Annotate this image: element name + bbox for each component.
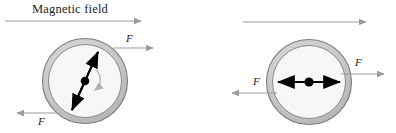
right-panel [232,22,384,125]
pivot-dot-left [81,77,90,86]
force-label-left-upper: F [126,33,133,44]
force-label-right-west: F [253,76,260,87]
force-label-right-east: F [355,57,362,68]
pivot-dot-right [304,77,313,86]
magnetic-dipole-figure: Magnetic field F F F F [0,0,396,133]
force-label-left-lower: F [38,116,45,127]
magnetic-field-label: Magnetic field [32,3,108,16]
figure-canvas [0,0,396,133]
